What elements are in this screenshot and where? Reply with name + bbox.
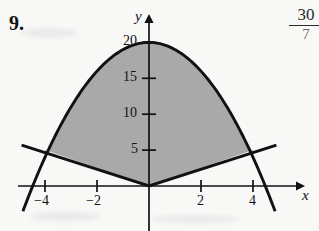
y-axis-label: y <box>135 8 142 25</box>
x-tick-label: −2 <box>86 193 101 209</box>
corner-fraction-denominator: 7 <box>289 26 319 43</box>
y-tick-label: 10 <box>123 105 137 121</box>
problem-figure: 9. 30 7 y x −4−2245101520 <box>0 0 319 231</box>
y-tick-label: 20 <box>123 33 137 49</box>
y-tick-label: 15 <box>123 69 137 85</box>
problem-number: 9. <box>9 12 24 35</box>
corner-fraction-numerator: 30 <box>289 6 319 26</box>
x-tick-label: −4 <box>34 193 49 209</box>
y-tick-label: 5 <box>131 141 138 157</box>
x-tick-label: 4 <box>249 193 256 209</box>
corner-fraction: 30 7 <box>289 6 319 43</box>
x-axis-label: x <box>302 187 309 204</box>
x-tick-label: 2 <box>197 193 204 209</box>
y-axis-arrowhead <box>144 14 153 23</box>
